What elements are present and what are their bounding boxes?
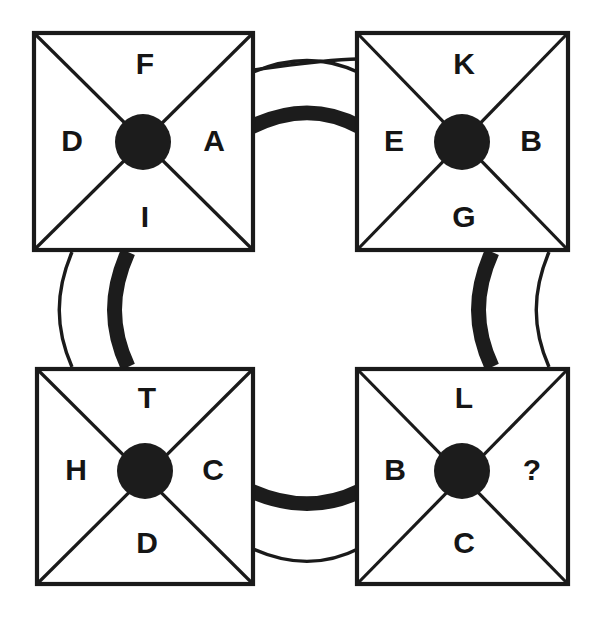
box-bottom-right-letter-left: B bbox=[384, 453, 406, 486]
connector-left bbox=[59, 252, 128, 367]
connector-top-thick-arc bbox=[251, 113, 360, 127]
box-bottom-right-hub bbox=[434, 443, 490, 499]
box-top-left[interactable]: F D A I bbox=[34, 33, 253, 250]
box-bottom-left-letter-top: T bbox=[138, 381, 156, 414]
box-bottom-right-letter-top: L bbox=[455, 381, 473, 414]
connector-left-thin-arc bbox=[59, 252, 72, 367]
connector-right-thick-arc bbox=[479, 252, 493, 367]
box-top-right-letter-bottom: G bbox=[452, 200, 475, 233]
connector-left-thick-arc bbox=[115, 252, 129, 367]
connector-right bbox=[479, 252, 550, 367]
diagram-root: F D A I K E B G T H C D bbox=[0, 0, 598, 620]
connector-bottom-thick-arc bbox=[251, 491, 360, 504]
connector-right-thin-arc bbox=[536, 252, 549, 367]
connector-bottom-thin-arc bbox=[251, 548, 360, 562]
box-bottom-right[interactable]: L B ? C bbox=[357, 369, 568, 584]
box-top-right[interactable]: K E B G bbox=[357, 33, 568, 250]
box-bottom-right-letter-right: ? bbox=[523, 453, 541, 486]
box-bottom-right-letter-bottom: C bbox=[453, 526, 475, 559]
box-top-right-letter-left: E bbox=[384, 124, 404, 157]
box-top-left-letter-right: A bbox=[203, 124, 225, 157]
box-top-left-letter-top: F bbox=[136, 47, 154, 80]
box-top-right-letter-top: K bbox=[453, 47, 475, 80]
connector-top bbox=[251, 59, 370, 127]
box-bottom-left-hub bbox=[117, 443, 173, 499]
box-bottom-left-letter-bottom: D bbox=[136, 526, 158, 559]
box-top-right-hub bbox=[434, 114, 490, 170]
connector-top-thin-arc-outer bbox=[251, 60, 360, 73]
diagram-canvas: F D A I K E B G T H C D bbox=[0, 0, 598, 620]
box-top-left-hub bbox=[115, 114, 171, 170]
box-top-left-letter-bottom: I bbox=[141, 200, 149, 233]
box-top-right-letter-right: B bbox=[520, 124, 542, 157]
connector-bottom bbox=[251, 491, 360, 562]
box-bottom-left-letter-left: H bbox=[65, 453, 87, 486]
box-bottom-left-letter-right: C bbox=[202, 453, 224, 486]
box-top-left-letter-left: D bbox=[61, 124, 83, 157]
box-bottom-left[interactable]: T H C D bbox=[37, 369, 253, 584]
